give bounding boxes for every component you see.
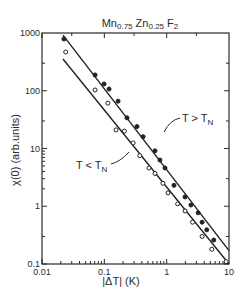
annotation-below: T < TN [76,159,108,174]
data-point-open [166,191,170,195]
data-point-filled [116,99,120,103]
annotation-above: T > TN [182,112,214,127]
annotation-arrow-above [164,118,180,132]
data-point-filled [62,37,66,41]
data-point-open [131,141,135,145]
chart: Mn0.75 Zn0.25 F2 0.010.11100.11101001000… [0,0,240,298]
data-point-filled [212,238,216,242]
x-tick-label: 10 [224,267,234,277]
data-point-filled [189,203,193,207]
data-point-open [200,234,204,238]
y-tick-label: 1000 [20,28,40,38]
data-point-open [224,260,228,264]
data-point-filled [183,195,187,199]
data-point-filled [125,116,129,120]
data-point-filled [200,220,204,224]
x-axis-label: |ΔT| (K) [102,275,140,287]
data-point-open [64,50,68,54]
fit-line-above-tn [63,35,229,251]
data-point-open [122,129,126,133]
fit-lines [63,35,229,264]
data-point-open [106,101,110,105]
data-point-filled [196,211,200,215]
data-point-filled [93,73,97,77]
chart-title: Mn0.75 Zn0.25 F2 [102,17,179,31]
data-points [62,37,228,264]
data-point-filled [102,82,106,86]
annotations: T > TN T < TN [76,112,214,174]
y-tick-label: 0.1 [27,259,40,269]
data-point-filled [158,158,162,162]
y-tick-label: 1 [35,201,40,211]
y-tick-label: 100 [25,86,40,96]
data-point-filled [141,135,145,139]
data-point-open [183,209,187,213]
data-point-filled [163,166,167,170]
y-axis-label: χ(0) (arb.units) [9,114,21,186]
data-point-open [153,171,157,175]
data-point-open [114,128,118,132]
data-point-open [93,88,97,92]
data-point-filled [205,228,209,232]
data-point-open [191,220,195,224]
x-tick-label: 1 [164,267,169,277]
data-point-open [138,154,142,158]
tick-labels: 0.010.11100.11101001000 [20,28,234,277]
data-point-open [161,181,165,185]
data-point-filled [135,125,139,129]
data-point-open [210,247,214,251]
data-point-open [176,202,180,206]
data-point-filled [107,87,111,91]
data-point-filled [153,149,157,153]
y-tick-label: 10 [30,144,40,154]
data-point-open [147,166,151,170]
data-point-filled [172,183,176,187]
annotation-arrow-below [111,152,129,164]
